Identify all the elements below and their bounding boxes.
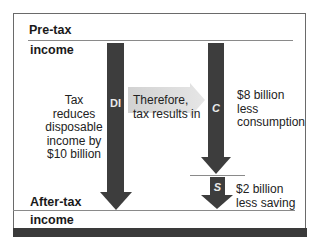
consumption-note-line: consumption bbox=[237, 116, 305, 130]
income-label-bottom: income bbox=[30, 213, 74, 227]
saving-note: $2 billion less saving bbox=[236, 183, 295, 210]
bottom-bar bbox=[13, 228, 307, 237]
c-arrowhead-icon bbox=[201, 157, 231, 175]
middle-note-line: tax results in bbox=[133, 108, 200, 122]
consumption-note-line: $8 billion bbox=[237, 89, 305, 103]
s-tag: S bbox=[210, 181, 225, 193]
consumption-note-line: less bbox=[237, 103, 305, 117]
pre-tax-label: Pre-tax bbox=[29, 23, 71, 37]
left-note: Tax reduces disposable income by $10 bil… bbox=[44, 94, 104, 162]
left-note-line: Tax reduces bbox=[44, 94, 104, 121]
di-arrow-shaft bbox=[107, 43, 124, 193]
saving-note-line: less saving bbox=[236, 197, 295, 211]
after-tax-label: After-tax bbox=[30, 195, 81, 209]
saving-note-line: $2 billion bbox=[236, 183, 295, 197]
consumption-note: $8 billion less consumption bbox=[237, 89, 305, 130]
c-s-separator-line bbox=[190, 175, 245, 176]
c-tag: C bbox=[208, 102, 224, 114]
middle-note: Therefore, tax results in bbox=[133, 94, 200, 121]
left-note-line: income by bbox=[44, 135, 104, 149]
middle-note-line: Therefore, bbox=[133, 94, 200, 108]
pre-tax-line bbox=[28, 40, 293, 41]
c-arrow-shaft bbox=[208, 43, 224, 158]
di-tag: DI bbox=[107, 97, 124, 109]
left-note-line: $10 billion bbox=[44, 148, 104, 162]
income-label-top: income bbox=[30, 43, 74, 57]
after-tax-line bbox=[13, 210, 295, 211]
left-note-line: disposable bbox=[44, 121, 104, 135]
di-arrowhead-icon bbox=[100, 192, 132, 211]
s-arrowhead-icon bbox=[201, 195, 233, 210]
